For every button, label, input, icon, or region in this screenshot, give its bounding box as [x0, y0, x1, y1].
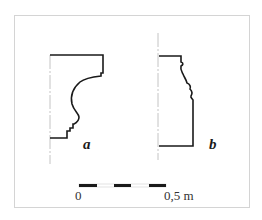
scale-end-label: 0,5 m [164, 188, 194, 204]
profile-drawing [0, 0, 262, 220]
profile-b-outline [159, 56, 193, 146]
scale-bar [79, 184, 166, 187]
profile-a-label: a [83, 136, 91, 153]
profile-a-outline [50, 55, 103, 138]
scale-start-label: 0 [75, 188, 82, 204]
profile-b-label: b [209, 136, 217, 153]
